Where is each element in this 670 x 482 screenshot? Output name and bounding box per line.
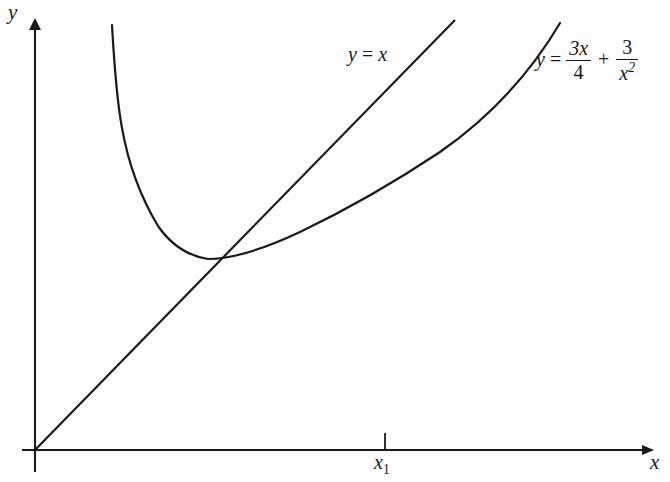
curve-term1-denominator: 4: [566, 60, 591, 83]
curve-second-fraction: 3x2: [616, 37, 638, 84]
curve-lhs: y: [536, 48, 545, 70]
curve-equals-sign: =: [550, 48, 561, 70]
x1-subscript: 1: [383, 462, 390, 477]
curve-term2-denominator-exponent: 2: [628, 60, 635, 75]
math-figure: y x x1 y=x y=3x4+3x2: [0, 0, 670, 482]
line-y-equals-x: [35, 20, 455, 450]
x-axis-label: x: [650, 452, 659, 473]
line-lhs: y: [348, 43, 357, 65]
curve-equation-label: y=3x4+3x2: [536, 38, 638, 85]
line-equals-sign: =: [362, 43, 373, 65]
curve-first-fraction: 3x4: [566, 38, 591, 83]
y-axis-label: y: [8, 2, 17, 23]
x1-tick-label: x1: [374, 452, 390, 477]
curve-term2-numerator: 3: [616, 37, 638, 59]
line-equation-label: y=x: [348, 44, 387, 64]
curve-term2-denominator: x2: [616, 59, 638, 84]
line-rhs: x: [378, 43, 387, 65]
curve-term2-denominator-base: x: [619, 62, 628, 84]
x1-base: x: [374, 451, 383, 473]
curve-plus-sign: +: [598, 48, 609, 70]
curve-term1-numerator: 3x: [566, 38, 591, 60]
